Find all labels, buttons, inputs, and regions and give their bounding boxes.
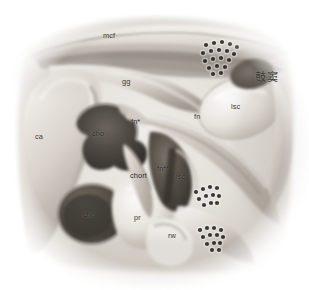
- annotation-lsc2: lsc: [176, 173, 185, 180]
- air-cell-dot: [201, 187, 205, 191]
- air-cell-dot: [217, 194, 221, 198]
- air-cell-dot: [212, 226, 216, 230]
- air-cell-dot: [211, 193, 215, 197]
- annotation-fn2star: fn**: [157, 165, 169, 172]
- air-cell-dot: [203, 59, 207, 63]
- annotation-cho1: cho: [92, 130, 104, 137]
- air-cell-dot: [220, 40, 224, 44]
- air-cell-dot: [225, 49, 229, 53]
- illustration-body: [10, 17, 309, 288]
- air-cell-dot: [211, 57, 215, 61]
- air-cell-dot: [207, 66, 211, 70]
- anatomy-illustration: [0, 0, 309, 290]
- anatomical-figure: mcfgg鼓窦lscfnfn*cachofn**chortlscchoprrw: [0, 0, 309, 290]
- air-cell-dot: [208, 185, 212, 189]
- air-cell-dot: [204, 43, 208, 47]
- air-cell-dot: [227, 58, 231, 62]
- annotation-fnstar: fn*: [131, 118, 140, 125]
- air-cell-dot: [219, 71, 223, 75]
- air-cell-dot: [201, 51, 205, 55]
- annotation-gg: gg: [122, 78, 130, 85]
- air-cell-dot: [217, 248, 221, 252]
- annotation-fn1: fn: [194, 113, 200, 120]
- air-cell-dot: [198, 228, 202, 232]
- air-cell-dot: [223, 65, 227, 69]
- air-cell-dot: [219, 228, 223, 232]
- air-cell-dot: [204, 194, 208, 198]
- air-cell-dot: [208, 233, 212, 237]
- air-cell-dot: [212, 241, 216, 245]
- air-cell-dot: [221, 235, 225, 239]
- air-cell-dot: [235, 45, 239, 49]
- air-cell-dot: [202, 203, 206, 207]
- annotation-lsc1: lsc: [231, 103, 240, 110]
- annotation-cho2: cho: [83, 211, 95, 218]
- air-cell-dot: [215, 64, 219, 68]
- air-cell-dot: [232, 52, 236, 56]
- air-cell-dot: [194, 190, 198, 194]
- air-cell-dot: [212, 41, 216, 45]
- air-cell-dot: [209, 201, 213, 205]
- air-cell-dot: [201, 235, 205, 239]
- air-cell-dot: [215, 186, 219, 190]
- air-cell-dot: [205, 226, 209, 230]
- air-cell-dot: [228, 42, 232, 46]
- air-cell-dot: [205, 242, 209, 246]
- air-cell-dot: [209, 49, 213, 53]
- annotation-rw: rw: [168, 232, 176, 239]
- annotation-pr: pr: [134, 214, 141, 221]
- shade-right: [232, 80, 309, 220]
- air-cell-dot: [215, 201, 219, 205]
- annotation-mcf: mcf: [103, 32, 115, 39]
- shade-topleft: [10, 44, 110, 96]
- air-cell-dot: [211, 72, 215, 76]
- air-cell-dot: [219, 56, 223, 60]
- annotation-ca: ca: [35, 133, 43, 140]
- air-cell-dot: [197, 197, 201, 201]
- air-cell-dot: [218, 241, 222, 245]
- air-cell-dot: [215, 233, 219, 237]
- annotation-antrum: 鼓窦: [255, 72, 278, 83]
- air-cell-dot: [217, 48, 221, 52]
- air-cell-dot: [210, 248, 214, 252]
- annotation-chort: chort: [130, 172, 147, 179]
